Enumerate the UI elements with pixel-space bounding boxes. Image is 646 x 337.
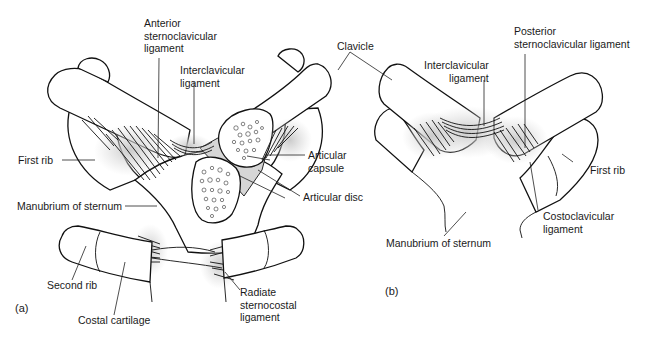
- posterior-sc-ligament-shade: [484, 116, 548, 164]
- label-line: ligament: [144, 42, 217, 55]
- label-radiate-sternocostal-ligament: Radiate sternocostal ligament: [240, 286, 297, 324]
- manubrium-b-right-edge: [520, 212, 536, 238]
- label-interclavicular-ligament-a: Interclavicular ligament: [180, 64, 245, 89]
- label-articular-capsule: Articular capsule: [308, 149, 347, 174]
- label-posterior-sternoclavicular-ligament: Posterior sternoclavicular ligament: [514, 25, 630, 50]
- label-manubrium-b: Manubrium of sternum: [386, 237, 491, 250]
- label-line: Interclavicular: [424, 59, 489, 72]
- label-manubrium-a: Manubrium of sternum: [17, 200, 122, 213]
- label-interclavicular-ligament-b: Interclavicular ligament: [424, 59, 489, 84]
- manubrium-cut-section: [192, 157, 241, 223]
- label-articular-disc: Articular disc: [303, 191, 363, 204]
- sternoclavicular-joint-figure: Anterior sternoclavicular ligament Inter…: [0, 0, 646, 337]
- panel-b-tag: (b): [385, 285, 398, 297]
- label-line: Articular: [308, 149, 347, 162]
- label-first-rib-a: First rib: [18, 154, 53, 167]
- label-second-rib: Second rib: [47, 279, 97, 292]
- clavicle-right-end: [278, 49, 304, 72]
- label-line: Posterior: [514, 25, 630, 38]
- label-line: Interclavicular: [180, 64, 245, 77]
- label-clavicle: Clavicle: [337, 40, 374, 53]
- label-line: sternoclavicular ligament: [514, 38, 630, 51]
- label-line: ligament: [180, 77, 245, 90]
- label-line: Costoclavicular: [543, 210, 614, 223]
- manubrium-b-left-edge: [412, 172, 446, 232]
- label-line: Anterior: [144, 17, 217, 30]
- label-first-rib-b: First rib: [590, 164, 625, 177]
- label-line: capsule: [308, 162, 347, 175]
- label-line: Radiate: [240, 286, 297, 299]
- label-line: sternoclavicular: [144, 30, 217, 43]
- label-anterior-sternoclavicular-ligament: Anterior sternoclavicular ligament: [144, 17, 217, 55]
- label-costal-cartilage: Costal cartilage: [78, 314, 150, 327]
- label-line: ligament: [424, 72, 489, 85]
- label-line: ligament: [543, 223, 614, 236]
- label-line: sternocostal: [240, 299, 297, 312]
- label-costoclavicular-ligament: Costoclavicular ligament: [543, 210, 614, 235]
- label-line: ligament: [240, 311, 297, 324]
- panel-a-tag: (a): [15, 302, 28, 314]
